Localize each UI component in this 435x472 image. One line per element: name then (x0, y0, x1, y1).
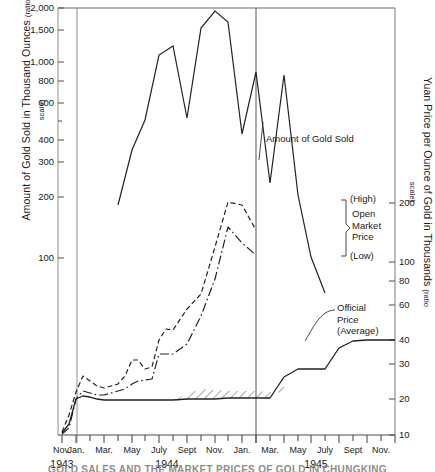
x-axis-ticks (62, 435, 395, 443)
y-tick-right-20: 20 (399, 393, 435, 404)
annotation-high: (High) (350, 193, 376, 205)
y-axis-right-title-text: Yuan Price per Ounce of Gold in Thousand… (422, 77, 434, 286)
y-tick-left-600: 600 (14, 97, 54, 108)
y-tick-right-10: 10 (399, 429, 435, 440)
y-tick-left-300: 300 (14, 156, 54, 167)
annotation-amount-of-gold-sold: Amount of Gold Sold (266, 133, 354, 145)
annotation-open-market-price: Open Market Price (352, 208, 381, 243)
series-open-market-price-low (62, 227, 256, 434)
right-axis-ticks (389, 203, 395, 435)
series-official-price-average (62, 340, 395, 433)
year-divider-rules (77, 8, 256, 443)
y-tick-right-200: 200 (399, 197, 435, 208)
y-tick-left-1500: 1,500 (14, 24, 54, 35)
y-tick-left-1000: 1,000 (14, 56, 54, 67)
x-tick-nov-1945: Nov. (361, 445, 401, 455)
left-axis-ticks (58, 8, 64, 258)
amount-of-gold-sold-leader (259, 122, 263, 160)
plot-frame (58, 8, 395, 435)
y-tick-left-800: 800 (14, 75, 54, 86)
official-price-leader (305, 310, 335, 341)
y-tick-right-80: 80 (399, 275, 435, 286)
y-tick-right-60: 60 (399, 299, 435, 310)
y-tick-right-100: 100 (399, 256, 435, 267)
y-tick-left-100: 100 (14, 252, 54, 263)
y-tick-right-40: 40 (399, 334, 435, 345)
chart-figure: Amount of Gold Sold in Thousand Ounces (… (0, 0, 435, 472)
y-tick-left-2000: 2,000 (14, 2, 54, 13)
figure-caption: GOLD SALES AND THE MARKET PRICES OF GOLD… (0, 464, 435, 472)
y-tick-right-30: 30 (399, 358, 435, 369)
annotation-official-price: Official Price (Average) (337, 302, 379, 337)
y-tick-left-200: 200 (14, 191, 54, 202)
annotation-low: (Low) (350, 250, 374, 262)
open-market-price-bracket (341, 200, 350, 256)
y-tick-left-400: 400 (14, 134, 54, 145)
series-amount-of-gold-sold (118, 11, 325, 293)
